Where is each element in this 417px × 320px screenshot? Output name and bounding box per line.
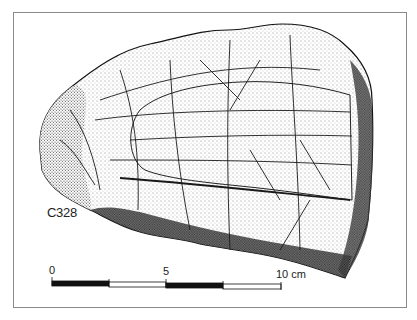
scale-label-10cm: 10 cm <box>276 268 306 280</box>
scale-bar <box>52 277 281 290</box>
scale-label-0: 0 <box>49 264 55 276</box>
specimen-label: C328 <box>47 205 77 220</box>
scale-label-5: 5 <box>163 265 169 277</box>
stone-drawing <box>0 0 417 320</box>
